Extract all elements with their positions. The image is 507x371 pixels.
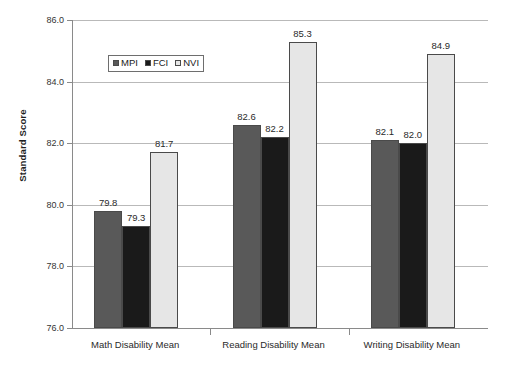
y-tick-mark-84.0 (67, 82, 73, 83)
y-axis-label-80.0: 80.0 (22, 200, 64, 210)
y-axis-label-86.0: 86.0 (22, 15, 64, 25)
grouped-bar-chart: Standard Score 86.084.082.080.078.076.0 … (0, 0, 507, 371)
legend-item-nvi: NVI (175, 58, 199, 68)
bar-fci-group3 (399, 143, 427, 328)
bar-mpi-group1 (94, 211, 122, 328)
x-axis-category-label-1: Math Disability Mean (91, 339, 179, 350)
chart-legend: MPIFCINVI (108, 55, 204, 72)
y-tick-mark-76.0 (67, 328, 73, 329)
gridline-76.0 (73, 328, 488, 329)
bar-value-label-fci-group3: 82.0 (404, 129, 423, 140)
legend-item-fci: FCI (145, 58, 168, 68)
bar-nvi-group3 (427, 54, 455, 328)
y-axis-label-84.0: 84.0 (22, 77, 64, 87)
bar-fci-group1 (122, 226, 150, 328)
x-axis-category-label-3: Writing Disability Mean (364, 339, 460, 350)
gridline-84.0 (73, 82, 488, 83)
bar-value-label-mpi-group3: 82.1 (376, 126, 395, 137)
legend-swatch-fci (145, 60, 151, 66)
y-axis-label-82.0: 82.0 (22, 138, 64, 148)
legend-item-mpi: MPI (113, 58, 138, 68)
x-axis-separator-2 (349, 328, 350, 335)
legend-swatch-mpi (113, 60, 119, 66)
x-axis-separator-1 (210, 328, 211, 335)
bar-fci-group2 (261, 137, 289, 328)
y-tick-mark-78.0 (67, 266, 73, 267)
bar-value-label-mpi-group1: 79.8 (99, 197, 118, 208)
bar-nvi-group1 (150, 152, 178, 328)
bar-value-label-mpi-group2: 82.6 (237, 111, 256, 122)
legend-swatch-nvi (175, 60, 181, 66)
bar-value-label-nvi-group3: 84.9 (432, 40, 451, 51)
y-tick-mark-80.0 (67, 205, 73, 206)
y-axis-label-78.0: 78.0 (22, 261, 64, 271)
legend-label-fci: FCI (153, 58, 168, 68)
bar-value-label-fci-group2: 82.2 (265, 123, 284, 134)
legend-label-mpi: MPI (121, 58, 138, 68)
bar-value-label-fci-group1: 79.3 (127, 212, 146, 223)
y-axis-label-76.0: 76.0 (22, 323, 64, 333)
bar-nvi-group2 (289, 42, 317, 328)
legend-label-nvi: NVI (183, 58, 199, 68)
bar-mpi-group2 (233, 125, 261, 328)
y-tick-mark-82.0 (67, 143, 73, 144)
x-axis-category-label-2: Reading Disability Mean (222, 339, 324, 350)
bar-value-label-nvi-group1: 81.7 (155, 138, 174, 149)
bar-mpi-group3 (371, 140, 399, 328)
gridline-86.0 (73, 20, 488, 21)
bar-value-label-nvi-group2: 85.3 (293, 28, 312, 39)
y-tick-mark-86.0 (67, 20, 73, 21)
